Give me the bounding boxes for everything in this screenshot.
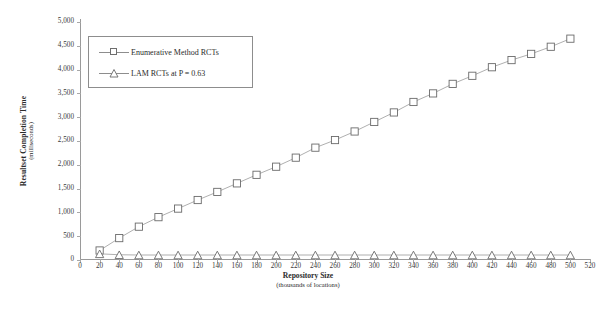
legend-label-lam: LAM RCTs at P = 0.63 (129, 69, 205, 78)
x-axis-tick-label: 260 (330, 262, 341, 270)
y-axis-tick-label: 5,000 (40, 18, 74, 25)
y-axis-tick-mark (77, 93, 81, 94)
y-axis-tick-label: 0 (40, 256, 74, 263)
data-point-square (547, 43, 554, 50)
x-axis-tick-label: 440 (506, 262, 517, 270)
data-point-square (429, 90, 436, 97)
data-point-square (312, 144, 319, 151)
y-axis-tick-mark (77, 117, 81, 118)
x-axis-tick-label: 460 (526, 262, 537, 270)
y-axis-tick-label: 500 (40, 233, 74, 240)
y-axis-tick-label: 3,500 (40, 90, 74, 97)
x-axis-title-sub: (thousands of locations) (0, 281, 616, 288)
data-point-square (567, 35, 574, 42)
y-axis-tick-label: 3,000 (40, 114, 74, 121)
data-point-square (331, 136, 338, 143)
data-point-square (214, 188, 221, 195)
y-axis-tick-mark (77, 70, 81, 71)
y-axis-tick-mark (77, 165, 81, 166)
x-axis-tick-label: 200 (271, 262, 282, 270)
x-axis-tick-label: 340 (408, 262, 419, 270)
data-point-square (233, 180, 240, 187)
y-axis-tick-mark (77, 22, 81, 23)
y-axis-title-sub: (milliseconds) (28, 96, 35, 186)
data-point-square (371, 118, 378, 125)
data-point-square (292, 154, 299, 161)
data-point-square (253, 171, 260, 178)
x-axis-tick-label: 140 (212, 262, 223, 270)
x-axis-tick-label: 380 (447, 262, 458, 270)
data-point-square (469, 72, 476, 79)
legend-entry-lam: LAM RCTs at P = 0.63 (99, 66, 205, 80)
y-axis-tick-labels: 05001,0001,5002,0002,5003,0003,5004,0004… (38, 0, 74, 312)
x-axis-tick-label: 480 (545, 262, 556, 270)
data-point-square (116, 235, 123, 242)
y-axis-tick-mark (77, 189, 81, 190)
x-axis-tick-label: 400 (467, 262, 478, 270)
y-axis-tick-label: 1,500 (40, 185, 74, 192)
x-axis-title-main: Repository Size (0, 272, 616, 281)
chart-legend: Enumerative Method RCTs LAM RCTs at P = … (88, 36, 253, 88)
x-axis-tick-label: 520 (585, 262, 596, 270)
data-point-square (508, 56, 515, 63)
data-point-square (155, 214, 162, 221)
y-axis-tick-mark (77, 46, 81, 47)
x-axis-tick-label: 500 (565, 262, 576, 270)
x-axis-tick-label: 300 (369, 262, 380, 270)
x-axis-tick-label: 20 (96, 262, 103, 270)
x-axis-tick-label: 60 (135, 262, 142, 270)
y-axis-tick-label: 1,000 (40, 209, 74, 216)
data-point-square (174, 205, 181, 212)
y-axis-tick-mark (77, 212, 81, 213)
data-point-square (390, 109, 397, 116)
data-point-square (410, 98, 417, 105)
x-axis-tick-label: 180 (251, 262, 262, 270)
legend-label-enumerative: Enumerative Method RCTs (129, 48, 219, 57)
x-axis-tick-label: 360 (428, 262, 439, 270)
data-point-square (488, 64, 495, 71)
x-axis-tick-label: 320 (388, 262, 399, 270)
data-point-square (449, 80, 456, 87)
data-point-square (273, 163, 280, 170)
x-axis-tick-label: 280 (349, 262, 360, 270)
y-axis-tick-label: 4,000 (40, 66, 74, 73)
y-axis-tick-label: 2,000 (40, 161, 74, 168)
x-axis-tick-label: 220 (290, 262, 301, 270)
data-point-square (194, 196, 201, 203)
legend-entry-enumerative: Enumerative Method RCTs (99, 45, 219, 59)
x-axis-tick-label: 40 (116, 262, 123, 270)
x-axis-title: Repository Size (thousands of locations) (0, 272, 616, 288)
square-marker-icon (99, 46, 129, 58)
x-axis-tick-label: 240 (310, 262, 321, 270)
x-axis-tick-label: 420 (487, 262, 498, 270)
chart-figure: Resultset Completion Time (milliseconds)… (0, 0, 616, 312)
y-axis-tick-mark (77, 236, 81, 237)
data-point-square (135, 223, 142, 230)
x-axis-tick-label: 80 (155, 262, 162, 270)
x-axis-tick-label: 100 (173, 262, 184, 270)
y-axis-tick-label: 2,500 (40, 137, 74, 144)
x-axis-tick-label: 0 (78, 262, 82, 270)
x-axis-tick-label: 120 (192, 262, 203, 270)
triangle-marker-icon (99, 67, 129, 79)
y-axis-tick-label: 4,500 (40, 42, 74, 49)
y-axis-tick-mark (77, 141, 81, 142)
x-axis-tick-label: 160 (232, 262, 243, 270)
y-axis-title: Resultset Completion Time (milliseconds) (14, 36, 40, 246)
data-point-square (351, 128, 358, 135)
data-point-square (528, 50, 535, 57)
